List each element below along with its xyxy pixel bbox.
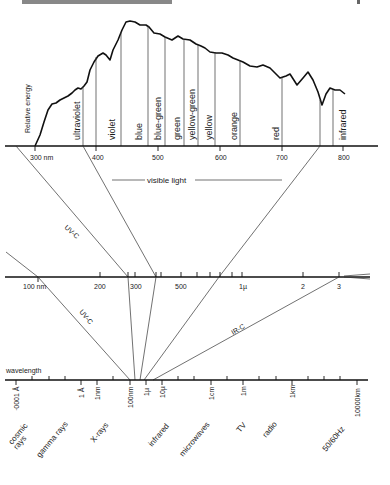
svg-text:200: 200 — [94, 283, 106, 290]
svg-text:300 nm: 300 nm — [30, 154, 54, 161]
band-red: red — [271, 127, 281, 140]
visible-light-label: visible light — [147, 176, 187, 185]
svg-text:1µ: 1µ — [239, 283, 247, 291]
svg-text:100nm: 100nm — [127, 386, 134, 408]
electromagnetic-spectrum-diagram: Relative energy ultraviolet violet blue … — [0, 0, 390, 485]
svg-text:1cm: 1cm — [208, 387, 215, 400]
band-orange: orange — [229, 112, 239, 140]
wavelength-axis-label: wavelength — [5, 367, 42, 375]
band-yellow: yellow — [204, 114, 214, 140]
svg-text:1µ: 1µ — [143, 388, 151, 396]
band-yellow-green: yellow-green — [187, 89, 197, 140]
bottom-panel: wavelength ·0001 Å — [5, 367, 368, 459]
middle-panel: 100 nm 200 300 500 1µ 2 3 — [5, 272, 370, 291]
bottom-axis-tick-labels: ·0001 Å 1 Å 1nm 100nm 1µ 10µ 1cm 1m 1km … — [12, 385, 361, 417]
spectrum-region-labels: cosmic rays gamma rays X-rays infrared m… — [7, 419, 347, 459]
region-microwaves: microwaves — [178, 420, 212, 458]
band-blue-green: blue-green — [153, 97, 163, 140]
svg-text:2: 2 — [301, 283, 305, 290]
band-violet: violet — [107, 118, 117, 140]
svg-text:1m: 1m — [240, 386, 247, 396]
svg-text:400: 400 — [92, 154, 104, 161]
svg-text:300: 300 — [130, 283, 142, 290]
region-gamma-rays: gamma rays — [35, 420, 70, 460]
band-green: green — [172, 117, 182, 140]
svg-text:1km: 1km — [289, 385, 296, 398]
svg-text:10µ: 10µ — [159, 386, 167, 398]
svg-text:3: 3 — [337, 283, 341, 290]
svg-text:100 nm: 100 nm — [23, 283, 47, 290]
band-labels: ultraviolet violet blue blue-green green… — [72, 89, 348, 140]
connectors-top-middle: UV-C — [6, 146, 320, 277]
svg-text:1nm: 1nm — [94, 386, 101, 400]
band-ultraviolet: ultraviolet — [72, 101, 82, 140]
middle-axis-tick-labels: 100 nm 200 300 500 1µ 2 3 — [23, 283, 341, 291]
svg-text:500: 500 — [152, 154, 164, 161]
band-blue: blue — [134, 123, 144, 140]
svg-text:1 Å: 1 Å — [77, 387, 85, 398]
region-50-60hz: 50/60Hz — [321, 425, 347, 454]
region-infrared: infrared — [147, 422, 171, 449]
svg-text:500: 500 — [175, 283, 187, 290]
region-x-rays: X-rays — [89, 421, 111, 444]
uv-c-label-upper: UV-C — [63, 224, 80, 240]
uv-c-label-lower: UV-C — [78, 308, 94, 325]
region-tv: TV — [235, 420, 249, 434]
region-radio: radio — [261, 419, 280, 439]
svg-text:10000km: 10000km — [354, 388, 361, 417]
svg-text:600: 600 — [215, 154, 227, 161]
connectors-middle-bottom: UV-C IR-C — [38, 277, 339, 380]
top-panel: Relative energy ultraviolet violet blue … — [5, 21, 378, 185]
svg-text:700: 700 — [276, 154, 288, 161]
y-axis-label: Relative energy — [24, 84, 32, 133]
band-infrared: infrared — [338, 109, 348, 140]
top-axis-tick-labels: 300 nm 400 500 600 700 800 — [30, 154, 350, 161]
ir-c-label: IR-C — [230, 323, 246, 336]
svg-text:·0001 Å: ·0001 Å — [12, 386, 20, 411]
svg-text:800: 800 — [338, 154, 350, 161]
